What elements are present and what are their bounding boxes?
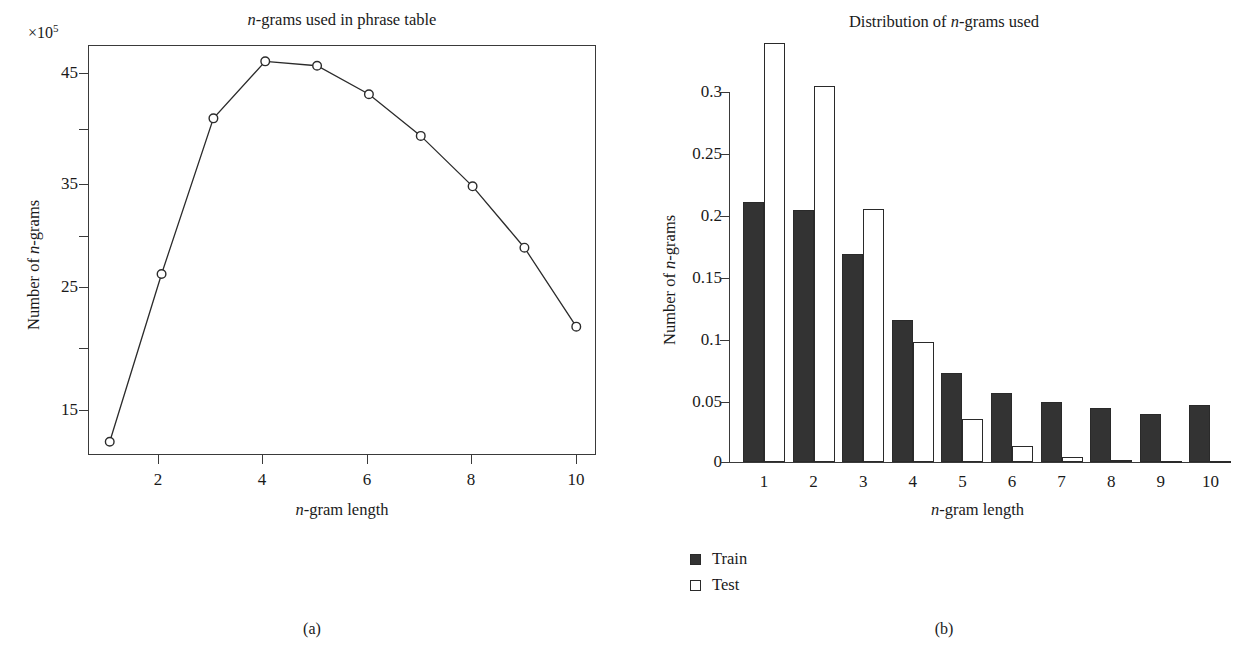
panel-a-title: n-grams used in phrase table xyxy=(92,10,592,30)
panel-a-xtick-6: 6 xyxy=(337,470,397,490)
panel-a-caption: (a) xyxy=(262,620,362,638)
exponent-base: ×10 xyxy=(28,24,53,41)
panel-a-marker-9[interactable] xyxy=(520,243,529,252)
figure-root: n-grams used in phrase table ×105 Number… xyxy=(0,0,1248,665)
panel-a-xtickmark-8 xyxy=(471,455,472,464)
panel-b-xtick-10: 10 xyxy=(1180,472,1240,492)
panel-a-xtickmark-4 xyxy=(262,455,263,464)
panel-a-ytickmark-45 xyxy=(79,73,88,74)
panel-a-ytick-15: 15 xyxy=(18,401,78,418)
panel-a-marker-5[interactable] xyxy=(313,61,322,70)
y-title-rest: -grams xyxy=(24,200,43,246)
panel-a-line-series xyxy=(110,61,577,441)
legend-label-train: Train xyxy=(712,549,747,569)
panel-a-xtickmark-2 xyxy=(158,455,159,464)
panel-b-caption: (b) xyxy=(894,620,994,638)
legend-item-test[interactable]: Test xyxy=(690,574,747,596)
panel-a-xtick-4: 4 xyxy=(232,470,292,490)
panel-a-marker-10[interactable] xyxy=(572,322,581,331)
panel-b-bar-chart: Distribution of n-grams used Number of n… xyxy=(624,0,1248,665)
panel-a-x-axis-title: n-gram length xyxy=(92,500,592,520)
panel-a-marker-8[interactable] xyxy=(468,182,477,191)
panel-a-title-rest: -grams used in phrase table xyxy=(256,10,437,29)
panel-a-ytickmark-15 xyxy=(79,410,88,411)
panel-a-ytick-25: 25 xyxy=(18,278,78,295)
panel-a-marker-7[interactable] xyxy=(416,132,425,141)
panel-a-ytick-45: 45 xyxy=(18,64,78,81)
panel-a-ytickmark-20 xyxy=(79,348,88,349)
panel-a-ytickmark-25 xyxy=(79,287,88,288)
x-title-prefix-b: n xyxy=(931,500,939,519)
panel-a-ytickmark-40 xyxy=(79,129,88,130)
legend-swatch-test-icon xyxy=(690,580,701,591)
exponent-power: 5 xyxy=(53,22,59,34)
x-title-rest: -gram length xyxy=(304,500,389,519)
panel-a-xtickmark-6 xyxy=(367,455,368,464)
y-title-ital: n xyxy=(24,246,43,254)
panel-a-series-svg xyxy=(89,46,597,456)
panel-a-ytick-35: 35 xyxy=(18,175,78,192)
panel-a-xtickmark-10 xyxy=(576,455,577,464)
panel-a-line-chart: n-grams used in phrase table ×105 Number… xyxy=(0,0,624,665)
panel-a-y-axis-title: Number of n-grams xyxy=(24,200,44,330)
panel-a-marker-group xyxy=(105,57,580,446)
panel-a-marker-4[interactable] xyxy=(261,57,270,66)
panel-a-xtick-2: 2 xyxy=(128,470,188,490)
x-title-rest-b: -gram length xyxy=(939,500,1024,519)
panel-a-marker-3[interactable] xyxy=(209,114,218,123)
panel-b-legend: Train Test xyxy=(690,548,747,600)
panel-a-ytickmark-30 xyxy=(79,236,88,237)
panel-a-marker-2[interactable] xyxy=(157,270,166,279)
panel-a-xtick-8: 8 xyxy=(441,470,501,490)
panel-a-marker-1[interactable] xyxy=(105,437,114,446)
x-title-prefix: n xyxy=(295,500,303,519)
legend-label-test: Test xyxy=(712,575,739,595)
panel-a-xtick-10: 10 xyxy=(546,470,606,490)
legend-item-train[interactable]: Train xyxy=(690,548,747,570)
panel-a-marker-6[interactable] xyxy=(365,90,374,99)
panel-a-ytickmark-35 xyxy=(79,184,88,185)
panel-a-exponent-label: ×105 xyxy=(28,22,59,42)
legend-swatch-train-icon xyxy=(690,554,701,565)
panel-a-plot-area xyxy=(88,45,596,455)
panel-b-x-axis-title: n-gram length xyxy=(729,500,1226,520)
panel-a-title-prefix: n xyxy=(248,10,256,29)
